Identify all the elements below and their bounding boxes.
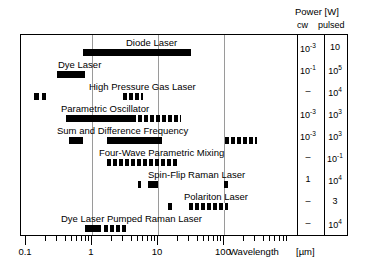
axis-tick-minor bbox=[45, 236, 46, 241]
range-bar bbox=[83, 49, 192, 56]
cw-power-value: – bbox=[296, 152, 320, 162]
range-bar bbox=[224, 181, 229, 188]
pulsed-column-header: pulsed bbox=[318, 21, 345, 30]
axis-tick-minor bbox=[76, 236, 77, 241]
axis-tick-minor bbox=[71, 236, 72, 241]
power-column-title: Power [W] bbox=[295, 7, 339, 17]
cw-power-value: 10-1 bbox=[296, 64, 320, 76]
x-axis bbox=[20, 236, 348, 246]
range-bar bbox=[132, 115, 181, 122]
row-label: Dye Laser Pumped Raman Laser bbox=[61, 213, 202, 224]
axis-tick-minor bbox=[88, 236, 89, 241]
pulsed-power-value: 104 bbox=[322, 86, 348, 98]
pulsed-power-value: 104 bbox=[322, 218, 348, 230]
pulsed-power-value: 104 bbox=[322, 174, 348, 186]
row-label: Four-Wave Parametric Mixing bbox=[99, 147, 224, 158]
pulsed-power-value: 103 bbox=[322, 108, 348, 120]
axis-tick-minor bbox=[208, 236, 209, 241]
axis-tick-minor bbox=[279, 236, 280, 241]
pulsed-power-value: 105 bbox=[322, 64, 348, 76]
pulsed-power-value: 3 bbox=[322, 196, 348, 206]
axis-tick-minor bbox=[65, 236, 66, 241]
axis-tick-minor bbox=[243, 236, 244, 241]
axis-tick-minor bbox=[213, 236, 214, 241]
x-axis-unit: [µm] bbox=[296, 246, 315, 257]
range-bar bbox=[107, 137, 162, 144]
row-label: Sum and Difference Frequency bbox=[57, 125, 188, 136]
axis-tick-minor bbox=[269, 236, 270, 241]
pulsed-power-value: 10 bbox=[322, 42, 348, 52]
cw-power-value: 10-3 bbox=[296, 42, 320, 54]
range-bar bbox=[189, 203, 228, 210]
axis-tick-minor bbox=[254, 236, 255, 241]
axis-tick-minor bbox=[263, 236, 264, 241]
pulsed-power-value: 103 bbox=[322, 130, 348, 142]
axis-tick-minor bbox=[142, 236, 143, 241]
range-bar bbox=[42, 93, 46, 100]
axis-tick-minor bbox=[154, 236, 155, 241]
row-label: Dye Laser bbox=[58, 59, 101, 70]
range-bar bbox=[107, 159, 179, 166]
range-bar bbox=[85, 225, 101, 232]
x-axis-title: Wavelength bbox=[229, 246, 279, 257]
range-bar bbox=[168, 203, 174, 210]
axis-tick-minor bbox=[111, 236, 112, 241]
axis-tick-minor bbox=[151, 236, 152, 241]
range-bar bbox=[104, 225, 127, 232]
axis-tick-minor bbox=[203, 236, 204, 241]
axis-tick-minor bbox=[197, 236, 198, 241]
cw-column-header: cw bbox=[297, 21, 308, 30]
cw-power-value: 1 bbox=[296, 174, 320, 184]
axis-tick-minor bbox=[283, 236, 284, 241]
axis-tick-minor bbox=[177, 236, 178, 241]
axis-tick-minor bbox=[188, 236, 189, 241]
pulsed-power-value: 10-1 bbox=[322, 152, 348, 164]
range-bar bbox=[138, 181, 141, 188]
axis-tick-minor bbox=[56, 236, 57, 241]
range-bar bbox=[66, 115, 132, 122]
axis-tick-minor bbox=[147, 236, 148, 241]
axis-tick-label: 1 bbox=[88, 246, 93, 257]
cw-power-value: – bbox=[296, 196, 320, 206]
range-bar bbox=[57, 71, 84, 78]
axis-tick-major bbox=[25, 236, 26, 245]
axis-tick-major bbox=[91, 236, 92, 245]
axis-tick-minor bbox=[131, 236, 132, 241]
range-bar bbox=[69, 137, 82, 144]
range-bar bbox=[148, 181, 158, 188]
range-bar bbox=[225, 137, 257, 144]
row-label: High Pressure Gas Laser bbox=[89, 81, 196, 92]
cw-power-value: 10-3 bbox=[296, 108, 320, 120]
axis-tick-minor bbox=[81, 236, 82, 241]
cw-power-value: – bbox=[296, 218, 320, 228]
cw-power-value: 10-3 bbox=[296, 130, 320, 142]
row-label: Parametric Oscillator bbox=[61, 103, 149, 114]
axis-tick-major bbox=[157, 236, 158, 245]
axis-tick-minor bbox=[286, 236, 287, 241]
range-bar bbox=[34, 93, 39, 100]
axis-tick-minor bbox=[85, 236, 86, 241]
axis-tick-minor bbox=[137, 236, 138, 241]
axis-tick-label: 0.1 bbox=[18, 246, 31, 257]
cw-power-value: – bbox=[296, 86, 320, 96]
axis-tick-minor bbox=[217, 236, 218, 241]
axis-tick-minor bbox=[274, 236, 275, 241]
row-label: Spin-Flip Raman Laser bbox=[148, 169, 245, 180]
axis-tick-minor bbox=[220, 236, 221, 241]
row-label: Diode Laser bbox=[126, 37, 177, 48]
axis-tick-major bbox=[223, 236, 224, 245]
row-label: Polariton Laser bbox=[184, 191, 248, 202]
axis-tick-minor bbox=[122, 236, 123, 241]
range-bar bbox=[123, 93, 143, 100]
laser-wavelength-chart: Power [W] cw pulsed Diode LaserDye Laser… bbox=[0, 0, 367, 263]
axis-tick-label: 10 bbox=[152, 246, 163, 257]
